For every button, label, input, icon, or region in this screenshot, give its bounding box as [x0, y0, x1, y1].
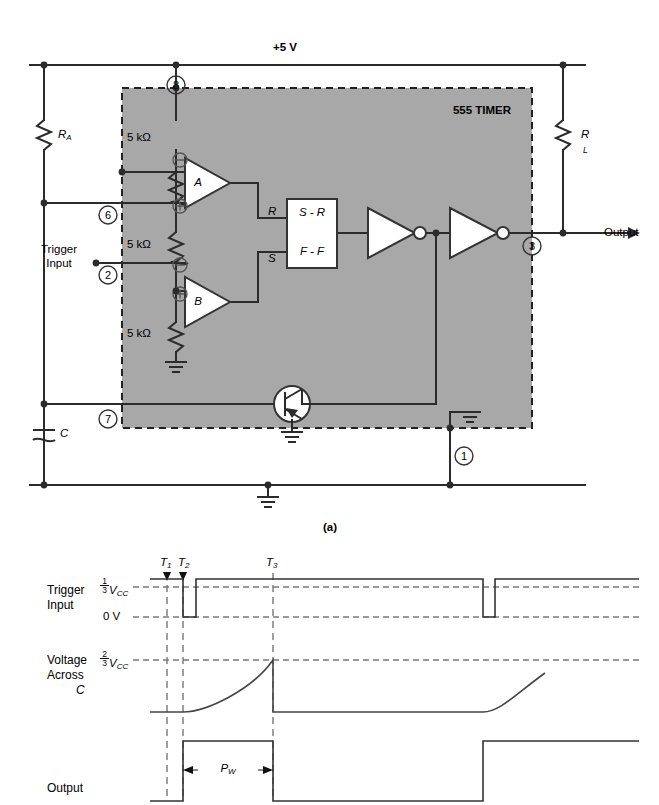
trigger-input-label-line2: Input: [24, 257, 94, 270]
reference-level-lines: [133, 587, 639, 660]
capacitor-voltage-waveform: [150, 660, 545, 712]
trigger-input-label-line1: Trigger: [24, 243, 94, 256]
inverter-1-bubble-icon: [414, 227, 426, 239]
pin-3-number: 3: [522, 240, 542, 253]
time-marker-t3-label: T3: [266, 556, 277, 570]
trigger-input-waveform: [150, 579, 639, 617]
pin-2-number: 2: [98, 269, 118, 282]
pin-7-number: 7: [98, 413, 118, 426]
resistor-rl-label: R: [581, 128, 589, 141]
transistor-ground-symbol: [281, 432, 303, 442]
resistor-ra-symbol: [37, 120, 51, 150]
pin-6-number: 6: [98, 209, 118, 222]
divider-r-top-label: 5 kΩ: [127, 131, 151, 144]
waveform-plot: [0, 555, 659, 805]
trigger-input-row-label-line1: Trigger: [47, 584, 85, 598]
level-two-third-vcc-label: 23VCC: [100, 651, 128, 671]
inverter-2-bubble-icon: [497, 227, 509, 239]
set-input-label: S: [268, 252, 276, 265]
voltage-across-c-row-label-line3: C: [76, 684, 85, 698]
time-marker-t2-label: T2: [178, 556, 189, 570]
supply-label: +5 V: [245, 41, 325, 54]
level-zero-volts-label: 0 V: [103, 610, 120, 623]
pin-8-number: 8: [166, 79, 186, 92]
trigger-input-row-label-line2: Input: [47, 599, 74, 613]
flipflop-label-line1: S - R: [287, 206, 337, 219]
voltage-across-c-row-label-line2: Across: [47, 669, 84, 683]
output-terminal-label: Output: [604, 226, 639, 239]
comparator-a-label: A: [188, 176, 208, 189]
resistor-rl-sublabel: L: [583, 146, 588, 156]
divider-r-mid-label: 5 kΩ: [127, 238, 151, 251]
figure-caption-a: (a): [280, 521, 380, 534]
resistor-ra-label: RA: [58, 128, 72, 142]
pin-1-number: 1: [454, 450, 474, 463]
level-one-third-vcc-label: 13VCC: [100, 578, 128, 598]
reset-input-label: R: [268, 205, 276, 218]
voltage-across-c-row-label-line1: Voltage: [47, 654, 87, 668]
time-marker-t1-label: T1: [160, 556, 171, 570]
resistor-rl-symbol: [556, 120, 570, 150]
flipflop-label-line2: F - F: [287, 245, 337, 258]
divider-r-bot-label: 5 kΩ: [127, 327, 151, 340]
chip-label: 555 TIMER: [440, 104, 524, 117]
output-row-label: Output: [47, 782, 83, 796]
pulse-width-label: PW: [198, 762, 258, 776]
capacitor-c-label: C: [60, 427, 68, 440]
comparator-b-label: B: [188, 295, 208, 308]
